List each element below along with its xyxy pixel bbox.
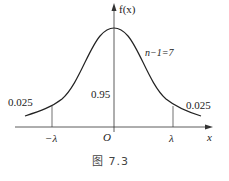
y-axis-label: f(x) [119, 4, 136, 15]
figure: f(x) n−1=7 0.95 0.025 0.025 −λ O λ x 图 7… [0, 0, 229, 181]
left-tail-label: 0.025 [8, 97, 33, 108]
left-quantile-label: −λ [45, 133, 57, 144]
center-area-label: 0.95 [91, 89, 110, 100]
x-axis-label: x [207, 132, 212, 143]
curve-label: n−1=7 [145, 48, 174, 58]
figure-caption: 图 7.3 [92, 152, 129, 168]
origin-label: O [103, 132, 111, 143]
x-axis-arrow-icon [205, 125, 213, 130]
right-tail-label: 0.025 [186, 100, 211, 111]
y-axis-arrow-icon [112, 3, 117, 11]
density-curve [25, 28, 201, 116]
right-quantile-label: λ [169, 133, 174, 144]
